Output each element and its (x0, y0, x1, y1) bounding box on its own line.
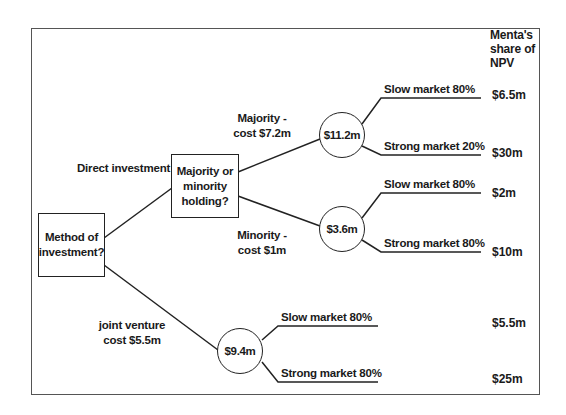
branch-minority (238, 196, 320, 226)
chance-node-minority: $3.6m (319, 206, 365, 252)
decision-tree-diagram: Menta's share of NPV Method of investmen… (0, 0, 566, 415)
joint-venture-label: joint venture cost $5.5m (82, 318, 182, 348)
payoff-majority-slow: $6.5m (492, 88, 526, 102)
minority-branch-label: Minority - cost $1m (222, 228, 302, 258)
root-decision-box: Method of investment? (38, 213, 105, 277)
direct-investment-label: Direct investment (77, 161, 170, 176)
outcome-label-majority-strong: Strong market 20% (384, 139, 485, 154)
payoff-jv-strong: $25m (492, 372, 523, 386)
chance-node-joint-venture: $9.4m (217, 328, 263, 374)
outcome-label-minority-slow: Slow market 80% (384, 177, 475, 192)
branch-direct-investment (104, 188, 172, 238)
outcome-minority-slow (362, 193, 481, 218)
payoff-minority-strong: $10m (492, 245, 523, 259)
outcome-label-jv-slow: Slow market 80% (281, 310, 372, 325)
chance-node-majority: $11.2m (319, 112, 365, 158)
outcome-jv-slow (262, 326, 378, 340)
holding-decision-box: Majority or minority holding? (171, 154, 239, 218)
majority-branch-label: Majority - cost $7.2m (222, 111, 302, 141)
payoff-majority-strong: $30m (492, 146, 523, 160)
outcome-label-jv-strong: Strong market 80% (281, 366, 382, 381)
outcome-label-majority-slow: Slow market 80% (384, 82, 475, 97)
branch-majority (238, 139, 320, 172)
payoff-minority-slow: $2m (492, 186, 516, 200)
outcome-majority-slow (362, 98, 481, 124)
tree-connectors (0, 0, 566, 415)
outcome-label-minority-strong: Strong market 80% (384, 236, 485, 251)
payoff-column-title: Menta's share of NPV (490, 28, 535, 70)
payoff-jv-slow: $5.5m (492, 316, 526, 330)
